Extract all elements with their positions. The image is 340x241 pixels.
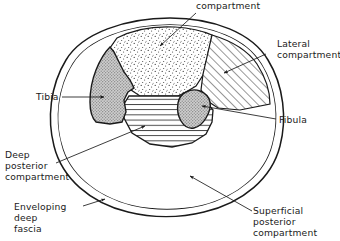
figure-canvas: compartment Lateral compartment Tibia Fi…: [0, 0, 340, 241]
label-deep-posterior-line2: posterior: [5, 160, 48, 171]
label-lateral-compartment-line1: Lateral: [277, 38, 310, 49]
lateral-compartment-region: [201, 35, 270, 110]
label-deep-posterior-line1: Deep: [5, 149, 30, 160]
label-enveloping-fascia-line2: deep: [14, 212, 38, 223]
label-fibula: Fibula: [279, 114, 307, 125]
label-lateral-compartment-line2: compartment: [277, 49, 340, 60]
leg-cross-section-diagram: compartment Lateral compartment Tibia Fi…: [0, 0, 340, 241]
label-superficial-posterior-line3: compartment: [253, 227, 317, 238]
label-anterior-compartment: compartment: [196, 0, 260, 11]
label-superficial-posterior-line1: Superficial: [253, 205, 303, 216]
label-enveloping-fascia-line1: Enveloping: [14, 201, 66, 212]
label-superficial-posterior-line2: posterior: [253, 216, 296, 227]
label-enveloping-fascia-line3: fascia: [14, 223, 42, 234]
label-tibia: Tibia: [35, 91, 59, 102]
label-deep-posterior-line3: compartment: [5, 171, 69, 182]
